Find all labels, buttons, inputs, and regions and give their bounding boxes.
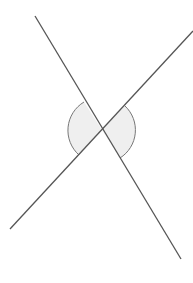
line-b [10, 31, 193, 229]
diagram-canvas [0, 0, 193, 283]
line-a [35, 16, 181, 259]
right-angle-mark [102, 106, 135, 158]
